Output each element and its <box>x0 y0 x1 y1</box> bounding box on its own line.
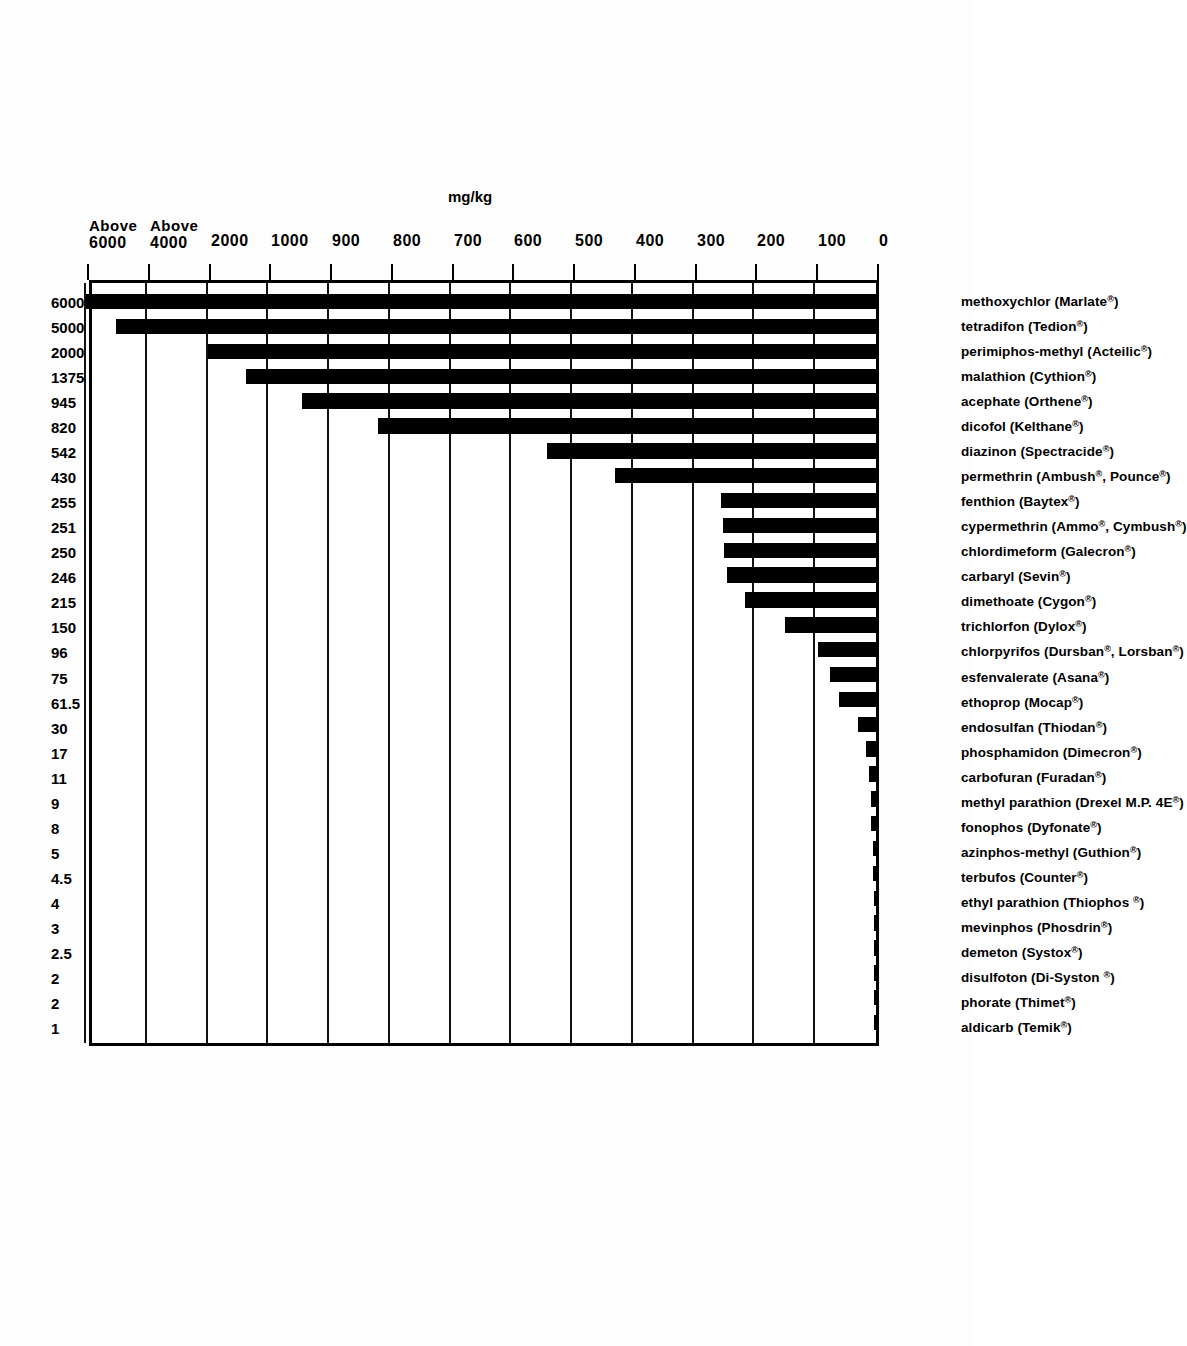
axis-tick <box>269 264 271 280</box>
bar-cell <box>92 985 876 1010</box>
category-label: phorate (Thimet®) <box>961 995 1076 1010</box>
bar-cell <box>92 662 876 687</box>
axis-tick-label-800: 800 <box>393 232 421 250</box>
bar <box>208 344 876 359</box>
bar-value-label: 2.5 <box>51 945 72 962</box>
axis-tick <box>209 264 211 280</box>
bar <box>723 518 876 533</box>
bar <box>246 369 876 384</box>
bar-cell <box>92 936 876 961</box>
category-label: esfenvalerate (Asana®) <box>961 670 1109 685</box>
axis-tick <box>573 264 575 280</box>
bar-cell <box>92 463 876 488</box>
axis-tick <box>452 264 454 280</box>
axis-tick <box>755 264 757 280</box>
bar-value-label: 9 <box>51 795 59 812</box>
bar <box>727 567 876 582</box>
bar <box>874 990 876 1005</box>
axis-tick-label-100: 100 <box>818 232 846 250</box>
bar-cell <box>92 612 876 637</box>
bar-cell <box>92 339 876 364</box>
category-label: carbaryl (Sevin®) <box>961 569 1071 584</box>
bar-value-label: 17 <box>51 745 68 762</box>
bar-cell <box>92 911 876 936</box>
plot-area <box>89 280 879 1046</box>
category-label: tetradifon (Tedion®) <box>961 319 1088 334</box>
bar-cell <box>92 811 876 836</box>
bar-cell <box>92 712 876 737</box>
bar-value-label: 1 <box>51 1020 59 1037</box>
bar-cell <box>92 737 876 762</box>
bar-cell <box>92 289 876 314</box>
bar <box>869 766 876 781</box>
bar-value-label: 255 <box>51 494 76 511</box>
bar-cell <box>92 588 876 613</box>
bar-cell <box>92 538 876 563</box>
bar-value-label: 945 <box>51 394 76 411</box>
axis-tick-label-300: 300 <box>697 232 725 250</box>
category-label: chlorpyrifos (Dursban®, Lorsban®) <box>961 644 1184 659</box>
category-label: permethrin (Ambush®, Pounce®) <box>961 469 1171 484</box>
axis-tick-label-1000: 1000 <box>271 232 309 250</box>
bar <box>871 816 876 831</box>
axis-tick <box>695 264 697 280</box>
category-label: dicofol (Kelthane®) <box>961 419 1084 434</box>
bar-value-label: 96 <box>51 644 68 661</box>
bar-cell <box>92 438 876 463</box>
category-label: acephate (Orthene®) <box>961 394 1093 409</box>
bar-value-label: 6000 <box>51 294 84 311</box>
axis-tick <box>391 264 393 280</box>
bar-cell <box>92 1010 876 1035</box>
bar-cell <box>92 513 876 538</box>
category-label: disulfoton (Di-Syston ®) <box>961 970 1115 985</box>
bar <box>378 418 876 433</box>
axis-tick-label-600: 600 <box>514 232 542 250</box>
category-label: fenthion (Baytex®) <box>961 494 1080 509</box>
bar <box>874 915 876 930</box>
category-label: mevinphos (Phosdrin®) <box>961 920 1112 935</box>
bar-cell <box>92 563 876 588</box>
bar <box>874 891 876 906</box>
category-label: aldicarb (Temik®) <box>961 1020 1072 1035</box>
bar-value-label: 4 <box>51 895 59 912</box>
bar-value-label: 4.5 <box>51 870 72 887</box>
category-label: fonophos (Dyfonate®) <box>961 820 1102 835</box>
bar <box>724 543 876 558</box>
axis-tick-label-700: 700 <box>454 232 482 250</box>
bar-value-label: 11 <box>51 770 67 787</box>
bar <box>858 717 876 732</box>
category-label: diazinon (Spectracide®) <box>961 444 1114 459</box>
category-label: cypermethrin (Ammo®, Cymbush®) <box>961 519 1187 534</box>
bar <box>302 393 876 408</box>
bar <box>871 791 876 806</box>
bar-value-label: 2000 <box>51 344 84 361</box>
category-label: azinphos-methyl (Guthion®) <box>961 845 1141 860</box>
bar-value-label: 250 <box>51 544 76 561</box>
axis-tick-label-400: 400 <box>636 232 664 250</box>
bar <box>866 741 876 756</box>
category-label: endosulfan (Thiodan®) <box>961 720 1107 735</box>
bar <box>874 940 876 955</box>
bar-cell <box>92 637 876 662</box>
category-label: carbofuran (Furadan®) <box>961 770 1106 785</box>
bar-value-label: 5 <box>51 845 59 862</box>
bar-value-label: 1375 <box>51 369 84 386</box>
axis-tick <box>148 264 150 280</box>
bar-cell <box>92 488 876 513</box>
bar-cell <box>92 960 876 985</box>
category-label: perimiphos-methyl (Acteilic®) <box>961 344 1152 359</box>
bar-value-label: 8 <box>51 820 59 837</box>
axis-tick <box>330 264 332 280</box>
gridline-above-6000 <box>84 283 86 1043</box>
bar <box>785 617 876 632</box>
category-label: malathion (Cythion®) <box>961 369 1096 384</box>
category-label: demeton (Systox®) <box>961 945 1083 960</box>
category-label: trichlorfon (Dylox®) <box>961 619 1087 634</box>
bar-value-label: 2 <box>51 995 59 1012</box>
axis-tick <box>816 264 818 280</box>
bar <box>721 493 876 508</box>
category-label: dimethoate (Cygon®) <box>961 594 1096 609</box>
bar-cell <box>92 364 876 389</box>
bar-cell <box>92 314 876 339</box>
